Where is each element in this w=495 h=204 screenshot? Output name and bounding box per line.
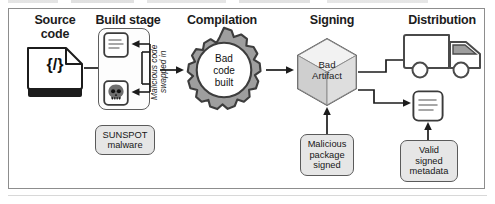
distribution-truck [404,30,484,82]
document-lines-icon [412,90,444,122]
valid-signed-metadata-label: Valid signed metadata [410,145,449,176]
arrow-package-to-artifact [321,104,333,134]
stage-header-source: Source code [24,13,86,41]
page-text-bleed [0,0,495,7]
stage-header-compilation: Compilation [178,13,266,27]
stage-header-build: Build stage [90,13,166,27]
figure-root: Source code Build stage Compilation Sign… [0,0,495,204]
figure-baseline-rule [8,195,487,196]
malicious-package-label: Malicious package signed [308,139,347,170]
delivery-truck-icon [404,30,484,82]
valid-signed-metadata-box: Valid signed metadata [400,140,458,182]
gear-label: Bad code built [202,53,246,88]
stage-header-signing: Signing [296,13,368,27]
stage-header-distribution: Distribution [398,13,486,27]
source-code-glyph: {/} [28,56,82,73]
compilation-gear: Bad code built [180,26,268,114]
malicious-package-box: Malicious package signed [300,134,354,176]
sunspot-malware-label: SUNSPOT malware [103,130,148,151]
arrow-metadata-to-document [422,120,434,142]
source-code-document: {/} [24,42,86,100]
bad-artifact-label: Bad Artifact [296,59,358,82]
arrow-compilation-to-signing [266,64,296,76]
bad-artifact-cube: Bad Artifact [296,38,358,106]
signed-metadata-document [412,90,444,122]
sunspot-malware-box: SUNSPOT malware [95,125,155,155]
